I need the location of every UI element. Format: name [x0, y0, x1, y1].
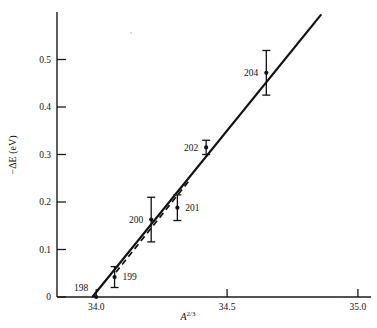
y-tick-label-0.1: 0.1: [39, 245, 51, 255]
y-axis-title-text: −ΔE (eV): [7, 136, 19, 175]
y-tick-label-0.5: 0.5: [39, 55, 51, 65]
data-point-199: [112, 275, 116, 279]
scatter-plot: 00.10.20.30.40.5 34.034.535.0 1981992002…: [0, 0, 377, 328]
data-point-201: [175, 206, 179, 210]
figure-container: 00.10.20.30.40.5 34.034.535.0 1981992002…: [0, 0, 377, 328]
point-label-199: 199: [123, 272, 138, 282]
data-point-200: [149, 217, 153, 221]
y-tick-label-0.4: 0.4: [39, 102, 51, 112]
x-tick-label-35.0: 35.0: [350, 302, 367, 312]
data-point-198: [94, 295, 98, 299]
point-label-202: 202: [184, 143, 199, 153]
x-tick-label-34.5: 34.5: [219, 302, 236, 312]
point-label-198: 198: [74, 283, 89, 293]
x-tick-label-34.0: 34.0: [88, 302, 105, 312]
y-axis-title: −ΔE (eV): [7, 136, 19, 175]
data-point-204: [264, 71, 268, 75]
point-label-204: 204: [244, 68, 259, 78]
scan-artifact-speck: [130, 32, 132, 34]
y-tick-label-0: 0: [46, 292, 51, 302]
data-point-202: [204, 145, 208, 149]
x-axis-title-sup: 2/3: [187, 310, 196, 318]
point-label-201: 201: [185, 203, 200, 213]
y-tick-label-0.3: 0.3: [39, 150, 51, 160]
y-tick-label-0.2: 0.2: [39, 197, 51, 207]
point-label-200: 200: [129, 215, 144, 225]
